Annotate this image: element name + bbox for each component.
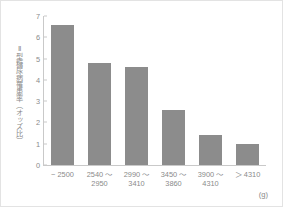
x-axis-unit-label: (g) — [259, 190, 268, 199]
x-axis-tick-label: − 2500 — [51, 170, 74, 179]
bar — [88, 63, 111, 165]
x-axis-tick-label: 2990 〜3410 — [124, 170, 150, 189]
bar — [199, 135, 222, 165]
x-axis-tick-label-line: 2540 〜 — [87, 170, 113, 179]
x-axis-tick-label: 2540 〜2950 — [87, 170, 113, 189]
bar-chart-figure: Ⅱ型糖尿病罹患率（オッズ比） 01234567 − 25002540 〜2950… — [0, 0, 283, 207]
x-axis-tick-label: 3450 〜3860 — [161, 170, 187, 189]
x-axis-tick-label-line: 3860 — [161, 179, 187, 188]
y-axis-tick-label: 3 — [36, 97, 44, 106]
bar — [125, 67, 148, 165]
y-axis-tick-label: 7 — [36, 12, 44, 21]
bar-series — [44, 16, 266, 165]
x-axis-tick-label-line: 3900 〜 — [198, 170, 224, 179]
x-axis-tick-label-line: 3450 〜 — [161, 170, 187, 179]
x-axis-tick-label-line: − 2500 — [51, 170, 74, 179]
bar — [51, 25, 74, 165]
y-axis-label: Ⅱ型糖尿病罹患率（オッズ比） — [9, 23, 23, 165]
x-axis-tick-label-line: ＞ 4310 — [235, 170, 261, 179]
bar — [162, 110, 185, 165]
y-axis-tick-label: 2 — [36, 118, 44, 127]
bar — [236, 144, 259, 165]
y-axis-tick-label: 6 — [36, 33, 44, 42]
x-axis-tick-label-line: 2990 〜 — [124, 170, 150, 179]
y-axis-tick-label: 0 — [36, 161, 44, 170]
x-axis-tick-label-line: 2950 — [87, 179, 113, 188]
plot-area: 01234567 − 25002540 〜29502990 〜34103450 … — [43, 16, 266, 166]
y-axis-tick-label: 4 — [36, 75, 44, 84]
x-axis-tick-label-line: 4310 — [198, 179, 224, 188]
x-axis-tick-label: ＞ 4310 — [235, 170, 261, 179]
x-axis-tick-label-line: 3410 — [124, 179, 150, 188]
y-axis-tick-label: 1 — [36, 139, 44, 148]
y-axis-tick-label: 5 — [36, 54, 44, 63]
x-axis-tick-label: 3900 〜4310 — [198, 170, 224, 189]
